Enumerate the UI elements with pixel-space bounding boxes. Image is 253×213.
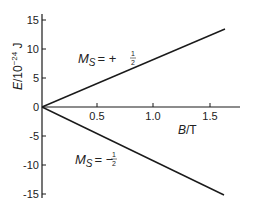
y-axis-label: E/10−24 J bbox=[10, 42, 25, 90]
x-tick-label: 1.0 bbox=[145, 110, 160, 122]
y-tick-label: -15 bbox=[23, 188, 39, 200]
series-line-ms-minus-half bbox=[42, 107, 224, 195]
y-tick-label: 15 bbox=[27, 14, 39, 26]
series-label-ms-plus-half: MS= + 1 2 bbox=[78, 50, 136, 68]
y-tick-label: -5 bbox=[29, 130, 39, 142]
x-axis-label: B/T bbox=[178, 123, 197, 137]
svg-text:2: 2 bbox=[112, 160, 116, 167]
y-tick-label: -10 bbox=[23, 159, 39, 171]
svg-text:1: 1 bbox=[112, 151, 116, 158]
svg-text:1: 1 bbox=[131, 50, 135, 57]
x-tick-labels: 0.5 1.0 1.5 bbox=[89, 110, 217, 122]
svg-text:2: 2 bbox=[131, 59, 135, 66]
y-tick-labels: 15 10 5 0 -5 -10 -15 bbox=[23, 14, 39, 200]
svg-text:MS= +: MS= + bbox=[78, 51, 116, 68]
energy-vs-field-chart: 15 10 5 0 -5 -10 -15 0.5 1.0 1.5 B/T E/1… bbox=[0, 0, 253, 213]
y-tick-label: 5 bbox=[33, 72, 39, 84]
series-line-ms-plus-half bbox=[42, 29, 225, 107]
series-label-ms-minus-half: MS= − 1 2 bbox=[75, 151, 117, 169]
y-tick-label: 0 bbox=[33, 101, 39, 113]
x-tick-label: 1.5 bbox=[202, 110, 217, 122]
y-tick-label: 10 bbox=[27, 43, 39, 55]
svg-text:MS= −: MS= − bbox=[75, 152, 113, 169]
x-tick-label: 0.5 bbox=[89, 110, 104, 122]
